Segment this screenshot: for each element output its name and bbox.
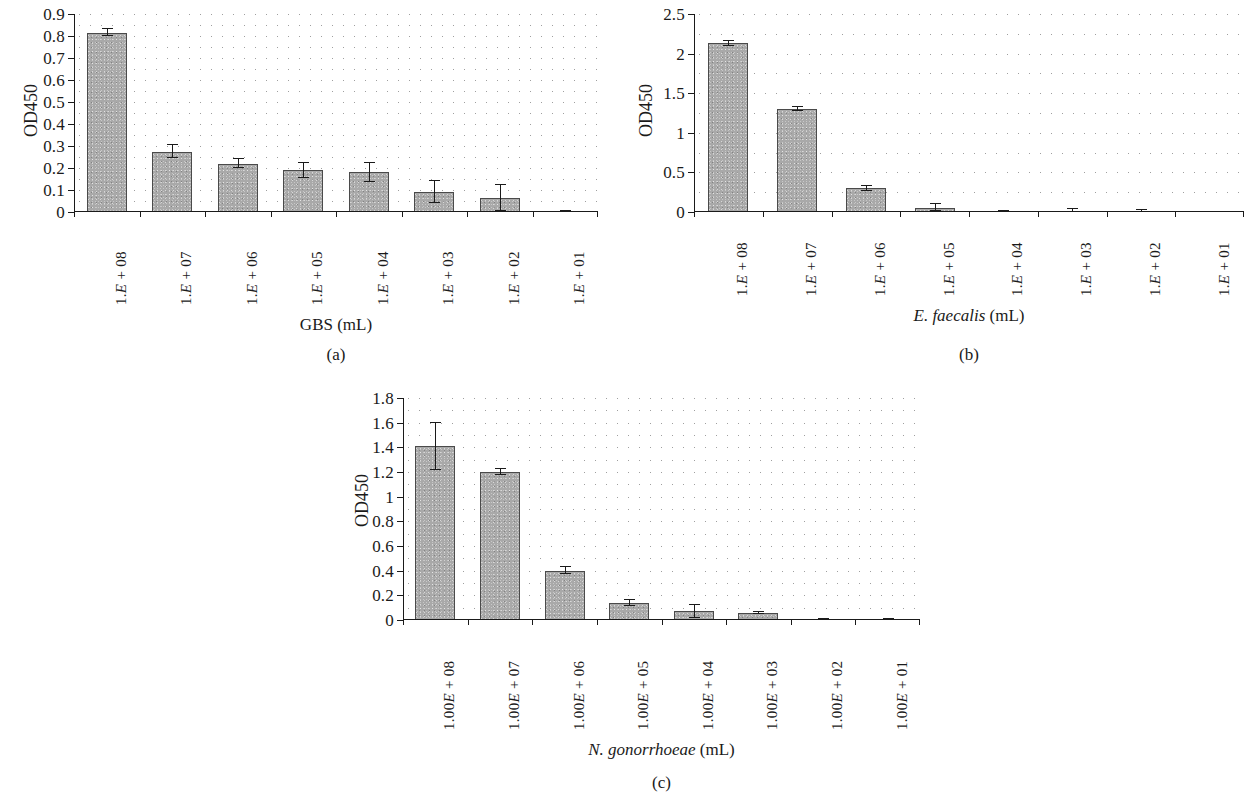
gridline-minor <box>74 25 598 26</box>
x-axis-tick <box>467 212 468 217</box>
error-bar-cap-bottom <box>624 605 635 606</box>
x-axis-tick <box>900 212 901 217</box>
y-axis-tick-label: 0.2 <box>43 160 65 177</box>
y-axis-tick-label: 0.4 <box>372 562 394 579</box>
gridline-minor <box>74 113 598 114</box>
panel-a: OD450 00.10.20.30.40.50.60.70.80.9 GBS (… <box>0 0 620 370</box>
gridline <box>74 14 598 15</box>
error-bar-cap-top <box>792 106 803 107</box>
x-axis-category-label: 1.00E + 02 <box>829 661 846 730</box>
error-bar-cap-bottom <box>753 613 764 614</box>
bar <box>415 446 455 620</box>
x-axis-category-label: 1.E + 05 <box>941 242 958 296</box>
panel-a-x-axis-line <box>74 211 598 212</box>
gridline <box>403 447 920 448</box>
gridline <box>74 80 598 81</box>
error-bar-cap-bottom <box>689 617 700 618</box>
panel-b-x-axis-line <box>694 211 1244 212</box>
panel-c-x-axis-unit: (mL) <box>700 740 735 759</box>
y-axis-tick-label: 0.1 <box>43 182 65 199</box>
gridline <box>403 423 920 424</box>
error-bar-cap-bottom <box>560 573 571 574</box>
x-axis-tick <box>532 620 533 625</box>
gridline-minor <box>694 34 1244 35</box>
error-bar <box>500 185 501 211</box>
x-axis-tick <box>402 212 403 217</box>
x-axis-category-label: 1.E + 06 <box>244 251 261 305</box>
x-axis-category-label: 1.00E + 07 <box>506 661 523 730</box>
x-axis-tick <box>1175 212 1176 217</box>
error-bar-cap-bottom <box>298 177 309 178</box>
x-axis-tick <box>1243 212 1244 217</box>
x-axis-category-label: 1.E + 01 <box>571 251 588 305</box>
x-axis-category-label: 1.00E + 04 <box>700 661 717 730</box>
y-axis-tick-label: 0.6 <box>372 538 394 555</box>
panel-c-y-axis-title: OD450 <box>352 461 373 541</box>
gridline <box>74 102 598 103</box>
gridline <box>74 58 598 59</box>
error-bar-cap-top <box>364 162 375 163</box>
error-bar-cap-top <box>689 604 700 605</box>
error-bar-cap-bottom <box>723 45 734 46</box>
panel-b-plot-area: 00.511.522.5 <box>694 14 1244 212</box>
bar <box>218 164 258 212</box>
x-axis-category-label: 1.E + 02 <box>506 251 523 305</box>
error-bar-cap-top <box>930 203 941 204</box>
error-bar <box>369 163 370 183</box>
x-axis-tick <box>1107 212 1108 217</box>
x-axis-tick <box>336 212 337 217</box>
gridline <box>74 146 598 147</box>
y-axis-tick-label: 0 <box>56 204 65 221</box>
x-axis-tick <box>140 212 141 217</box>
x-axis-tick <box>969 212 970 217</box>
y-axis-tick-label: 0.9 <box>43 6 65 23</box>
panel-c-plot-area: 00.20.40.60.811.21.41.61.8 <box>403 398 920 620</box>
x-axis-category-label: 1.E + 02 <box>1147 242 1164 296</box>
gridline <box>694 93 1244 94</box>
error-bar-cap-top <box>430 422 441 423</box>
x-axis-tick <box>662 620 663 625</box>
error-bar-cap-top <box>560 566 571 567</box>
x-axis-category-label: 1.E + 08 <box>113 251 130 305</box>
error-bar-cap-top <box>298 162 309 163</box>
y-axis-tick-label: 2 <box>676 45 685 62</box>
x-axis-category-label: 1.00E + 08 <box>441 661 458 730</box>
error-bar-cap-bottom <box>233 167 244 168</box>
panel-b-y-axis-line <box>694 14 695 212</box>
panel-a-plot-area: 00.10.20.30.40.50.60.70.80.9 <box>74 14 598 212</box>
x-axis-tick <box>271 212 272 217</box>
error-bar-cap-top <box>723 40 734 41</box>
error-bar <box>434 181 435 203</box>
error-bar-cap-top <box>102 28 113 29</box>
bar <box>708 43 748 212</box>
panel-a-y-axis-title: OD450 <box>21 71 42 151</box>
y-axis-tick-label: 1 <box>676 124 685 141</box>
error-bar-cap-top <box>1136 209 1147 210</box>
error-bar-cap-bottom <box>167 157 178 158</box>
x-axis-tick <box>832 212 833 217</box>
error-bar-cap-bottom <box>364 181 375 182</box>
x-axis-category-label: 1.E + 01 <box>1216 242 1233 296</box>
x-axis-tick <box>597 620 598 625</box>
bar <box>87 33 127 212</box>
x-axis-category-label: 1.E + 04 <box>375 251 392 305</box>
y-axis-tick-label: 0.6 <box>43 72 65 89</box>
error-bar-cap-top <box>429 180 440 181</box>
x-axis-tick <box>403 620 404 625</box>
x-axis-tick <box>791 620 792 625</box>
gridline-minor <box>74 69 598 70</box>
bar <box>480 472 520 620</box>
error-bar-cap-bottom <box>430 469 441 470</box>
x-axis-category-label: 1.00E + 05 <box>635 661 652 730</box>
panel-c-x-axis-species: N. gonorrhoeae <box>588 740 695 759</box>
y-axis-tick-label: 1 <box>385 488 394 505</box>
gridline <box>74 36 598 37</box>
x-axis-category-label: 1.00E + 06 <box>571 661 588 730</box>
x-axis-tick <box>1038 212 1039 217</box>
panel-b-x-axis-title: E. faecalis (mL) <box>694 306 1244 326</box>
gridline-minor <box>74 91 598 92</box>
x-axis-category-label: 1.E + 07 <box>803 242 820 296</box>
x-axis-category-label: 1.E + 04 <box>1009 242 1026 296</box>
y-axis-tick-label: 1.6 <box>372 414 394 431</box>
panel-a-x-axis-title: GBS (mL) <box>74 315 598 335</box>
